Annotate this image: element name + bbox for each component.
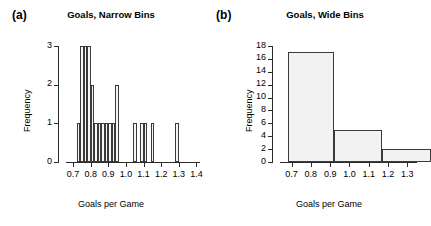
y-tick-mark [268,136,272,137]
y-tick-mark [268,162,272,163]
chart-a-ylabel: Frequency [22,89,32,132]
x-tick-mark [196,163,197,167]
x-tick-mark [330,163,331,167]
y-tick-mark [268,46,272,47]
y-tick-label: 0 [238,156,266,166]
x-tick-mark [126,163,127,167]
y-tick-label: 3 [24,40,52,50]
y-tick-mark [268,59,272,60]
y-tick-mark [54,85,58,86]
histogram-bar [382,149,430,162]
y-tick-label: 2 [24,78,52,88]
y-tick-mark [268,149,272,150]
y-tick-mark [268,98,272,99]
x-tick-label: 1.3 [393,169,421,179]
histogram-bar [175,123,179,162]
x-tick-mark [349,163,350,167]
chart-b-xlabel: Goals per Game [264,199,394,209]
histogram-bar [288,52,334,162]
y-tick-mark [268,110,272,111]
histogram-bar [151,123,155,162]
chart-b-ylabel: Frequency [244,89,254,132]
y-tick-label: 12 [238,78,266,88]
x-tick-mark [292,163,293,167]
y-tick-label: 18 [238,40,266,50]
y-tick-mark [54,123,58,124]
panel-a: (a) Goals, Narrow Bins 01230.70.80.91.01… [0,0,208,226]
x-tick-mark [108,163,109,167]
y-tick-label: 16 [238,52,266,62]
x-tick-mark [91,163,92,167]
y-axis-line [272,46,273,163]
x-tick-mark [144,163,145,167]
x-tick-mark [73,163,74,167]
chart-b-plot-area: 0246810121416180.70.80.91.01.11.21.3 [208,0,417,226]
x-tick-mark [311,163,312,167]
y-tick-mark [54,46,58,47]
y-axis-line [58,46,59,163]
y-tick-mark [268,123,272,124]
histogram-bar [133,123,137,162]
y-tick-label: 0 [24,156,52,166]
y-tick-mark [54,162,58,163]
x-tick-label: 1.4 [182,169,210,179]
y-tick-label: 2 [238,143,266,153]
histogram-bar [144,123,148,162]
x-tick-mark [369,163,370,167]
x-tick-mark [407,163,408,167]
y-tick-mark [268,85,272,86]
chart-a-xlabel: Goals per Game [46,199,176,209]
x-axis-line [66,162,200,163]
x-tick-mark [161,163,162,167]
histogram-bar [334,130,382,162]
y-tick-label: 14 [238,65,266,75]
histogram-bar [115,85,119,162]
y-tick-mark [268,72,272,73]
x-tick-mark [179,163,180,167]
x-tick-mark [388,163,389,167]
panel-b: (b) Goals, Wide Bins 0246810121416180.70… [208,0,417,226]
